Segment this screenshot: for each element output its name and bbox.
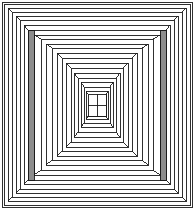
left-gray-panel	[28, 30, 34, 180]
figure-container	[0, 0, 194, 209]
nested-frames-figure	[0, 0, 194, 209]
right-gray-panel	[160, 30, 166, 180]
innermost-core	[88, 94, 106, 116]
